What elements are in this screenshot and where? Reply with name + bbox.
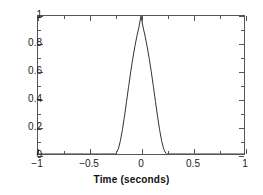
x-tick-major xyxy=(194,149,195,154)
plot-axes-frame xyxy=(37,15,245,155)
x-tick-major-top xyxy=(142,16,143,21)
y-tick-major-right xyxy=(239,156,244,157)
y-tick-minor-right xyxy=(241,114,244,115)
y-tick-label: 0 xyxy=(36,149,42,161)
x-tick-minor xyxy=(168,151,169,154)
y-tick-major-right xyxy=(239,100,244,101)
y-tick-major-right xyxy=(239,44,244,45)
x-tick-minor-top xyxy=(168,16,169,19)
x-tick-label: 0.5 xyxy=(186,158,200,170)
x-tick-major-top xyxy=(90,16,91,21)
y-tick-minor xyxy=(38,142,41,143)
y-tick-minor xyxy=(38,86,41,87)
y-tick-minor-right xyxy=(241,86,244,87)
x-tick-label: 1 xyxy=(242,158,248,170)
x-tick-minor-top xyxy=(64,16,65,19)
y-tick-major-right xyxy=(239,16,244,17)
y-tick-label: 1 xyxy=(36,9,42,21)
x-tick-label: 0 xyxy=(138,158,144,170)
x-tick-minor xyxy=(220,151,221,154)
y-tick-minor xyxy=(38,30,41,31)
y-tick-minor-right xyxy=(241,58,244,59)
x-tick-minor-top xyxy=(220,16,221,19)
x-tick-major-top xyxy=(246,16,247,21)
y-tick-minor-right xyxy=(241,30,244,31)
y-tick-minor-right xyxy=(241,142,244,143)
x-tick-minor-top xyxy=(116,16,117,19)
x-axis-title: Time (seconds) xyxy=(0,174,263,185)
y-tick-minor xyxy=(38,114,41,115)
x-tick-major xyxy=(90,149,91,154)
x-tick-label: −0.5 xyxy=(79,158,99,170)
y-tick-label: 0.4 xyxy=(28,93,42,105)
x-tick-major xyxy=(142,149,143,154)
pulse-curve xyxy=(38,16,244,154)
x-tick-major-top xyxy=(194,16,195,21)
x-tick-minor xyxy=(116,151,117,154)
y-tick-label: 0.2 xyxy=(28,121,42,133)
y-tick-label: 0.8 xyxy=(28,37,42,49)
y-tick-label: 0.6 xyxy=(28,65,42,77)
x-tick-major xyxy=(246,149,247,154)
y-tick-major-right xyxy=(239,72,244,73)
y-tick-major-right xyxy=(239,128,244,129)
x-tick-minor xyxy=(64,151,65,154)
y-tick-minor xyxy=(38,58,41,59)
figure-canvas: −1−0.500.51 00.20.40.60.81 Time (seconds… xyxy=(0,0,263,195)
